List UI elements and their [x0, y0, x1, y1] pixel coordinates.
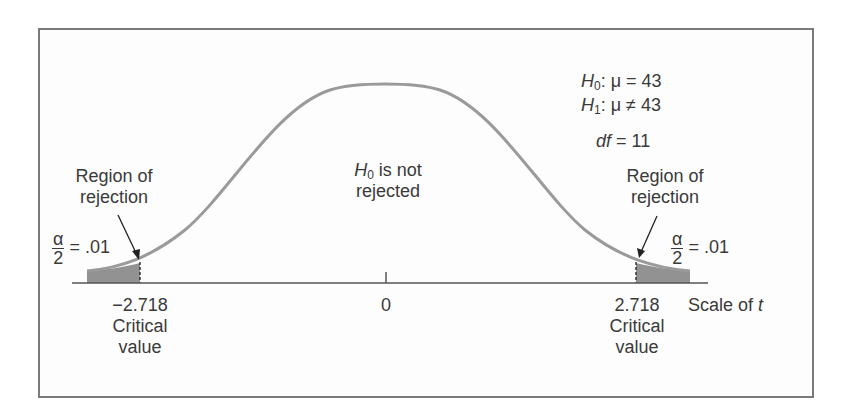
right-region-line2: rejection: [615, 187, 715, 208]
h0-statement: : μ = 43: [601, 71, 662, 91]
left-region-line1: Region of: [64, 166, 164, 187]
h1-subscript: 1: [594, 103, 601, 117]
left-region-label: Region of rejection: [64, 166, 164, 208]
alternative-hypothesis: H1: μ ≠ 43: [581, 95, 661, 116]
right-arrow: [641, 216, 657, 252]
right-critical-label: 2.718 Critical value: [592, 295, 682, 358]
left-critical-text1: Critical: [95, 316, 185, 337]
left-region-line2: rejection: [64, 187, 164, 208]
scale-variable: t: [758, 295, 763, 315]
h1-statement: : μ ≠ 43: [601, 95, 661, 115]
left-alpha-fraction: α2: [52, 230, 64, 267]
center-label-line2: rejected: [336, 181, 440, 202]
right-alpha-fraction: α2: [671, 230, 683, 267]
left-arrow: [118, 215, 137, 255]
center-h-subscript: 0: [367, 168, 374, 182]
h0-subscript: 0: [594, 79, 601, 93]
right-critical-text1: Critical: [592, 316, 682, 337]
right-alpha-value: = .01: [688, 237, 729, 257]
left-alpha-numerator: α: [52, 230, 64, 249]
center-region-label: H0 is not rejected: [336, 160, 440, 202]
right-critical-value: 2.718: [592, 295, 682, 316]
right-alpha-label: α2 = .01: [671, 230, 729, 267]
right-region-label: Region of rejection: [615, 166, 715, 208]
right-critical-text2: value: [592, 337, 682, 358]
null-hypothesis: H0: μ = 43: [581, 71, 662, 92]
right-arrow-head: [637, 248, 645, 258]
center-h-symbol: H: [354, 160, 367, 180]
left-critical-label: −2.718 Critical value: [95, 295, 185, 358]
left-alpha-value: = .01: [69, 237, 110, 257]
right-alpha-denominator: 2: [671, 249, 683, 267]
left-alpha-denominator: 2: [52, 249, 64, 267]
center-label-line1: H0 is not: [336, 160, 440, 181]
left-critical-text2: value: [95, 337, 185, 358]
right-alpha-numerator: α: [671, 230, 683, 249]
degrees-of-freedom: df = 11: [596, 131, 650, 152]
scale-of-t-label: Scale of t: [688, 295, 763, 316]
zero-tick-label: 0: [376, 295, 396, 316]
h1-symbol: H: [581, 95, 594, 115]
right-region-line1: Region of: [615, 166, 715, 187]
left-alpha-label: α2 = .01: [52, 230, 110, 267]
df-value: = 11: [611, 131, 650, 151]
scale-label-text: Scale of: [688, 295, 758, 315]
df-symbol: df: [596, 131, 611, 151]
center-label-text: is not: [374, 160, 422, 180]
left-critical-value: −2.718: [95, 295, 185, 316]
h0-symbol: H: [581, 71, 594, 91]
